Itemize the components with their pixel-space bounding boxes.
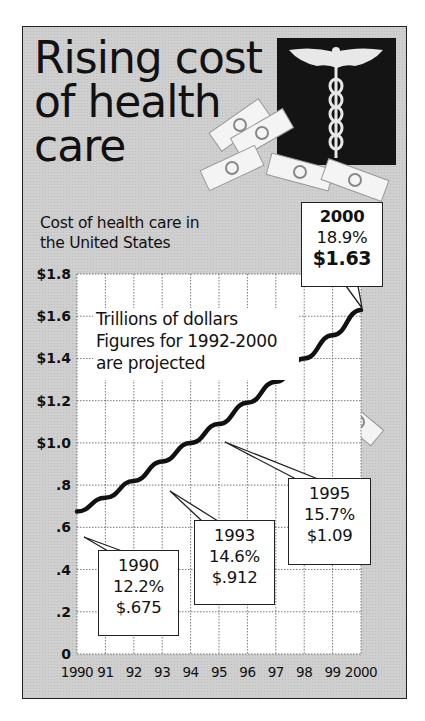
- y-tick-label: $1.8: [36, 266, 71, 282]
- callout-value: $1.63: [302, 248, 382, 269]
- note-line-3: are projected: [96, 353, 205, 373]
- y-tick-label: $1.4: [36, 350, 71, 366]
- callout-year: 2000: [302, 206, 382, 227]
- note-line-2: Figures for 1992-2000: [96, 331, 277, 351]
- callout-percent: 15.7%: [289, 504, 370, 525]
- note-line-1: Trillions of dollars: [95, 309, 238, 329]
- callout-value: $.675: [99, 597, 178, 618]
- callout-percent: 14.6%: [195, 546, 274, 567]
- y-tick-label: $1.2: [36, 393, 71, 409]
- x-tick-label: 2000: [345, 664, 377, 680]
- x-tick-label: 1990: [61, 664, 93, 680]
- x-tick-label: 91: [97, 664, 113, 680]
- x-tick-label: 97: [268, 664, 284, 680]
- x-tick-label: 94: [183, 664, 199, 680]
- y-tick-label: .2: [56, 604, 71, 620]
- y-tick-label: .6: [56, 519, 71, 535]
- callout-1995: 1995 15.7% $1.09: [288, 478, 371, 565]
- callout-year: 1990: [99, 555, 178, 576]
- callout-value: $.912: [195, 567, 274, 588]
- callout-percent: 18.9%: [302, 227, 382, 248]
- y-tick-label: .8: [56, 477, 71, 493]
- x-axis: 19909192939495969798992000: [61, 664, 377, 680]
- callout-1993: 1993 14.6% $.912: [194, 520, 275, 605]
- y-tick-label: $1.0: [36, 435, 71, 451]
- x-tick-label: 99: [325, 664, 341, 680]
- callout-2000: 2000 18.9% $1.63: [301, 202, 383, 287]
- callout-percent: 12.2%: [99, 576, 178, 597]
- y-tick-label: .4: [56, 562, 71, 578]
- x-tick-label: 93: [154, 664, 170, 680]
- line-chart: 0.2.4.6.8$1.0$1.2$1.4$1.6$1.8 1990919293…: [0, 0, 425, 721]
- x-tick-label: 98: [296, 664, 312, 680]
- callout-1990: 1990 12.2% $.675: [98, 550, 179, 636]
- x-tick-label: 92: [126, 664, 142, 680]
- y-tick-label: 0: [61, 646, 71, 662]
- y-tick-label: $1.6: [36, 308, 71, 324]
- x-tick-label: 96: [239, 664, 255, 680]
- callout-year: 1993: [195, 525, 274, 546]
- callout-year: 1995: [289, 483, 370, 504]
- x-tick-label: 95: [211, 664, 227, 680]
- y-axis: 0.2.4.6.8$1.0$1.2$1.4$1.6$1.8: [36, 266, 71, 662]
- callout-value: $1.09: [289, 525, 370, 546]
- note-text: Trillions of dollars Figures for 1992-20…: [93, 308, 299, 380]
